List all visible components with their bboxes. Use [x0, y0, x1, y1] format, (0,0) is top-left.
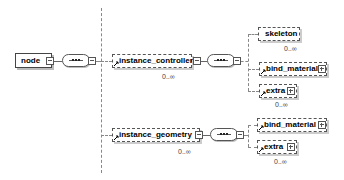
occurrence-label: 0..∞: [275, 101, 288, 108]
connector: [248, 147, 257, 148]
collapse-icon[interactable]: [88, 57, 96, 65]
element-label: skeleton: [265, 30, 297, 38]
instance-geometry-element[interactable]: instance_geometry: [112, 128, 200, 142]
bind-material-element[interactable]: bind_material: [257, 118, 327, 132]
element-label: extra: [266, 87, 285, 95]
connector: [101, 61, 112, 62]
connector: [241, 61, 248, 62]
bind-material-element[interactable]: bind_material: [259, 62, 327, 76]
connector: [248, 91, 259, 92]
connector: [54, 61, 62, 62]
element-label: extra: [264, 143, 283, 151]
connector: [248, 34, 258, 35]
collapse-icon[interactable]: [233, 57, 241, 65]
connector: [203, 135, 210, 136]
occurrence-label: 0..∞: [162, 73, 175, 80]
connector: [248, 69, 259, 70]
collapse-icon[interactable]: [46, 57, 54, 65]
element-label: bind_material: [264, 121, 316, 129]
collapse-icon[interactable]: [236, 131, 244, 139]
element-label: instance_geometry: [119, 131, 192, 139]
occurrence-label: 0..∞: [284, 45, 297, 52]
collapse-icon[interactable]: [193, 57, 201, 65]
occurrence-label: 0..∞: [178, 148, 191, 155]
occurrence-label: 0..∞: [274, 158, 287, 165]
sequence-compositor-icon: [210, 128, 238, 141]
expand-icon[interactable]: [318, 65, 326, 73]
element-label: bind_material: [266, 65, 318, 73]
instance-controller-element[interactable]: instance_controller: [112, 54, 192, 68]
expand-icon[interactable]: [287, 87, 295, 95]
element-label: instance_controller: [119, 57, 193, 65]
sequence-compositor-icon: [207, 54, 235, 67]
connector: [101, 135, 112, 136]
branch-connector-line: [248, 34, 249, 91]
connector: [248, 125, 257, 126]
expand-icon[interactable]: [318, 121, 326, 129]
expand-icon[interactable]: [287, 143, 295, 151]
element-label: node: [21, 57, 40, 65]
branch-connector-line: [101, 8, 102, 173]
branch-connector-line: [248, 125, 249, 147]
collapse-icon[interactable]: [195, 131, 203, 139]
skeleton-element[interactable]: skeleton: [258, 27, 300, 41]
sequence-compositor-icon: [62, 54, 90, 67]
